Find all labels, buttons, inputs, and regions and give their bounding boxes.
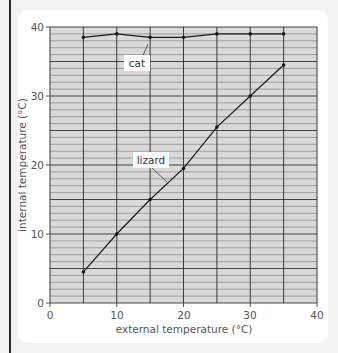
- cat-point: [248, 32, 252, 36]
- cat-point: [82, 36, 86, 40]
- y-tick-20: 20: [31, 159, 44, 171]
- y-tick-0: 0: [37, 297, 44, 309]
- lizard-point: [182, 167, 186, 171]
- lizard-point: [115, 232, 119, 236]
- cat-label: cat: [129, 57, 145, 69]
- x-tick-30: 30: [243, 309, 256, 321]
- lizard-point: [215, 125, 219, 129]
- lizard-label: lizard: [137, 154, 166, 166]
- lizard-point: [82, 270, 86, 274]
- cat-point: [282, 32, 286, 36]
- lizard-point: [248, 94, 252, 98]
- x-tick-20: 20: [177, 309, 190, 321]
- cat-point: [215, 32, 219, 36]
- lizard-point: [282, 63, 286, 67]
- x-tick-10: 10: [110, 309, 123, 321]
- y-tick-10: 10: [31, 228, 44, 240]
- x-tick-0: 0: [47, 309, 54, 321]
- lizard-point: [148, 198, 152, 202]
- x-axis-label: external temperature (°C): [116, 323, 253, 335]
- y-axis-label: internal temperature (°C): [16, 98, 28, 232]
- line-chart: 0 10 20 30 40 0 10 20 30 40 external tem…: [0, 0, 338, 353]
- x-tick-40: 40: [310, 309, 323, 321]
- y-tick-30: 30: [31, 90, 44, 102]
- cat-point: [148, 36, 152, 40]
- y-tick-40: 40: [31, 21, 44, 33]
- cat-point: [115, 32, 119, 36]
- cat-point: [182, 36, 186, 40]
